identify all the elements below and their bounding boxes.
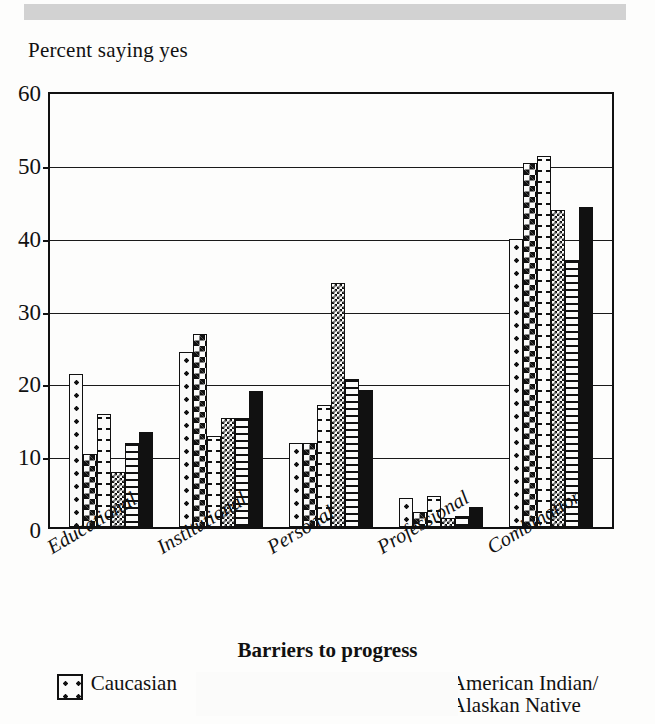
y-axis-tick-label: 60: [18, 81, 41, 107]
x-axis-tick-labels: EducationalInstitutionalPersonalProfessi…: [48, 531, 614, 631]
bar: [509, 239, 523, 527]
y-axis-tick-mark: [43, 385, 50, 387]
bar-group: [509, 94, 593, 527]
y-axis-tick-mark: [43, 167, 50, 169]
y-axis-tick-label: 20: [18, 372, 41, 398]
bar: [579, 207, 593, 527]
plot-area: 0102030405060: [48, 92, 614, 529]
bar-group: [69, 94, 153, 527]
y-axis-tick-label: 0: [30, 518, 42, 544]
bar: [69, 374, 83, 527]
legend-item: American Indian/Alaskan Native: [417, 672, 599, 716]
y-axis-tick-mark: [43, 240, 50, 242]
bar: [289, 443, 303, 527]
y-axis-tick-label: 50: [18, 154, 41, 180]
bar-group: [289, 94, 373, 527]
bar: [537, 156, 551, 527]
bar: [523, 163, 537, 527]
y-axis-tick-mark: [43, 458, 50, 460]
bar: [179, 352, 193, 527]
top-banner: [24, 4, 626, 20]
bar: [249, 391, 263, 527]
y-axis-tick-label: 30: [18, 300, 41, 326]
y-axis-label: Percent saying yes: [28, 38, 188, 63]
dashes-swatch: [417, 674, 443, 700]
bar: [469, 507, 483, 527]
chart-legend: CaucasianAfrican-AmericanAmerican Indian…: [0, 672, 655, 716]
bar-group: [179, 94, 263, 527]
bar-group: [399, 94, 483, 527]
y-axis-tick-label: 10: [18, 445, 41, 471]
bar: [359, 390, 373, 527]
bar: [345, 379, 359, 527]
x-axis-title: Barriers to progress: [0, 638, 655, 663]
bar: [455, 516, 469, 527]
bar: [193, 334, 207, 527]
y-axis-tick-label: 40: [18, 227, 41, 253]
bar: [551, 210, 565, 527]
bar: [331, 283, 345, 527]
bar: [139, 432, 153, 527]
bar-groups: [50, 94, 612, 527]
y-axis-tick-mark: [43, 313, 50, 315]
